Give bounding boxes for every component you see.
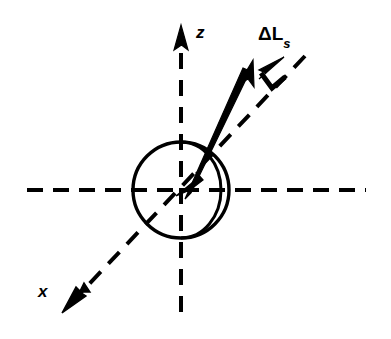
- delta-Ls-label-main: ΔL: [258, 23, 283, 44]
- diagram-background: [0, 0, 391, 339]
- z-axis-label: z: [196, 24, 205, 41]
- delta-Ls-label: ΔLs: [258, 24, 291, 47]
- delta-Ls-label-subscript: s: [283, 36, 290, 51]
- vector-diagram-canvas: [0, 0, 391, 339]
- figure-root: z x ΔLs: [0, 0, 391, 339]
- x-axis-label: x: [38, 283, 47, 300]
